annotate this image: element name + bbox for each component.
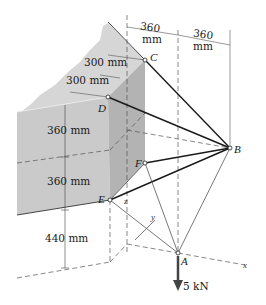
diagram-canvas: 360 mm 360 mm 300 mm 300 mm 360 mm 360 m… <box>0 0 266 305</box>
point-label-b: B <box>234 143 241 155</box>
axis-label-y: y <box>150 212 155 222</box>
point-label-e: E <box>97 193 105 205</box>
wall-front-face <box>17 97 110 215</box>
dim-top-right-unit: mm <box>193 40 213 52</box>
point-label-f: F <box>134 157 142 169</box>
axis-label-z: z <box>123 196 128 206</box>
point-label-d: D <box>97 102 106 114</box>
dim-wall-lower: 300 mm <box>66 74 109 86</box>
point-label-c: C <box>150 51 158 63</box>
dim-vertical-3: 440 mm <box>45 232 88 244</box>
dim-wall-upper: 300 mm <box>84 56 127 68</box>
load-label: 5 kN <box>183 280 209 292</box>
dim-vertical-2: 360 mm <box>47 175 90 187</box>
axis-label-x: x <box>242 260 247 270</box>
dim-top-left-unit: mm <box>142 33 162 45</box>
dim-vertical-1: 360 mm <box>47 124 90 136</box>
point-label-a: A <box>180 255 188 267</box>
